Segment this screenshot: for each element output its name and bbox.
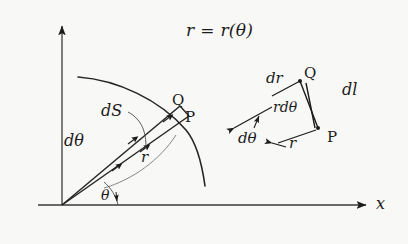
label-dr-inset: dr xyxy=(266,71,283,86)
label-point-P-main: P xyxy=(185,110,195,125)
label-rdtheta-inset: rdθ xyxy=(273,100,297,114)
inset-dtheta-arrow xyxy=(234,107,272,128)
label-dtheta-main: dθ xyxy=(64,133,84,149)
inset-dtheta-tick xyxy=(254,116,259,128)
label-r-inset: r xyxy=(289,136,296,151)
label-point-Q-main: Q xyxy=(172,93,184,108)
label-r-main: r xyxy=(141,150,148,165)
inset-side-dl xyxy=(300,81,318,128)
inset-radius-arrow xyxy=(272,143,286,147)
polar-coordinates-figure: r = r(θ) dS dθ r θ Q P x dr Q rdθ dl dθ … xyxy=(0,0,408,244)
label-point-Q-inset: Q xyxy=(304,66,316,81)
inset-radius-line xyxy=(278,130,316,143)
ray-theta xyxy=(62,116,189,205)
label-point-P-inset: P xyxy=(327,130,337,145)
inset-side-rdtheta xyxy=(306,83,315,128)
label-dS: dS xyxy=(101,103,122,119)
axis-group xyxy=(38,26,366,205)
figure-title: r = r(θ) xyxy=(186,22,253,39)
label-theta-main: θ xyxy=(101,188,109,202)
label-dl-inset: dl xyxy=(342,82,357,98)
ray-theta-plus-dtheta xyxy=(62,106,180,205)
label-dtheta-inset: dθ xyxy=(238,131,257,146)
label-x-axis: x xyxy=(376,196,385,212)
